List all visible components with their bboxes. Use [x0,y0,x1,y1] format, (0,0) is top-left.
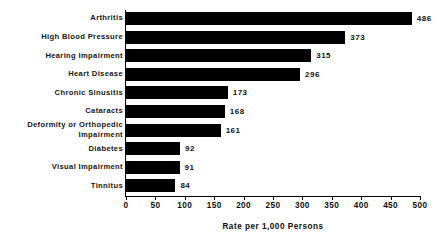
bar [126,161,180,174]
x-axis-tick-label: 150 [207,201,222,210]
bar [126,12,412,25]
bar-chart: ArthritisHigh Blood PressureHearing Impa… [0,0,447,249]
x-axis-tick [302,196,303,200]
bar [126,142,180,155]
x-axis-tick [391,196,392,200]
bar [126,179,175,192]
x-axis-tick [420,196,421,200]
bar [126,86,228,99]
x-axis-tick-label: 500 [413,201,428,210]
x-axis-tick [361,196,362,200]
x-axis-tick-label: 200 [236,201,251,210]
bar-value-label: 173 [233,86,248,99]
x-axis-tick [273,196,274,200]
x-axis-tick [126,196,127,200]
bar-value-label: 315 [316,49,331,62]
category-label: Hearing Impairment [0,51,123,60]
bar-value-label: 161 [226,124,241,137]
bar [126,124,221,137]
category-label: Visual Impairment [0,162,123,171]
bar-value-label: 92 [185,142,195,155]
x-axis-tick [214,196,215,200]
bar [126,68,300,81]
category-label: High Blood Pressure [0,32,123,41]
category-axis-labels: ArthritisHigh Blood PressureHearing Impa… [0,0,123,196]
x-axis-tick [244,196,245,200]
plot-area: 486373315296173168161929184 [126,10,420,196]
bar-value-label: 296 [305,68,320,81]
x-axis-tick-label: 100 [177,201,192,210]
x-axis-tick-label: 450 [383,201,398,210]
bar [126,31,345,44]
category-label: Diabetes [0,144,123,153]
x-axis-tick [185,196,186,200]
bar-value-label: 84 [180,179,190,192]
category-label: Arthritis [0,13,123,22]
bar-value-label: 373 [350,31,365,44]
x-axis-tick-label: 400 [354,201,369,210]
category-label: Deformity or Orthopedic Impairment [0,120,123,138]
category-label: Heart Disease [0,69,123,78]
x-axis-tick-label: 0 [124,201,129,210]
bar-value-label: 168 [230,105,245,118]
bar-value-label: 91 [185,161,195,174]
bar [126,105,225,118]
bar-value-label: 486 [417,12,432,25]
bar [126,49,311,62]
x-axis-title: Rate per 1,000 Persons [126,222,420,231]
category-label: Cataracts [0,106,123,115]
x-axis-tick-label: 250 [266,201,281,210]
category-label: Tinnitus [0,181,123,190]
x-axis-tick-label: 350 [324,201,339,210]
x-axis-tick-label: 300 [295,201,310,210]
category-label: Chronic Sinusitis [0,88,123,97]
x-axis-tick [332,196,333,200]
x-axis-tick-label: 50 [150,201,160,210]
x-axis-tick [155,196,156,200]
